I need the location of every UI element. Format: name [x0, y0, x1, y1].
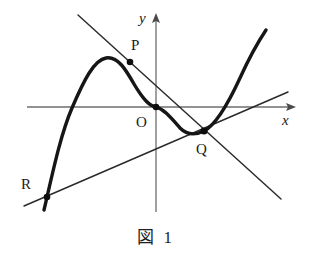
point-label-r: R	[21, 176, 31, 192]
figure-caption: 図 1	[0, 222, 309, 252]
point-label-q: Q	[196, 141, 207, 157]
point-dot-o	[153, 104, 160, 111]
point-label-p: P	[131, 37, 139, 53]
point-label-o: O	[136, 114, 147, 130]
figure-canvas: P O Q R y x	[0, 0, 309, 259]
caption-label: 図	[137, 229, 155, 246]
caption-number: 1	[164, 229, 173, 246]
point-dot-r	[44, 194, 51, 201]
x-axis-label: x	[281, 112, 289, 128]
point-dot-p	[127, 59, 134, 66]
y-axis-label: y	[137, 10, 146, 26]
figure-container: P O Q R y x 図 1	[0, 0, 309, 259]
point-dot-q	[200, 127, 207, 134]
